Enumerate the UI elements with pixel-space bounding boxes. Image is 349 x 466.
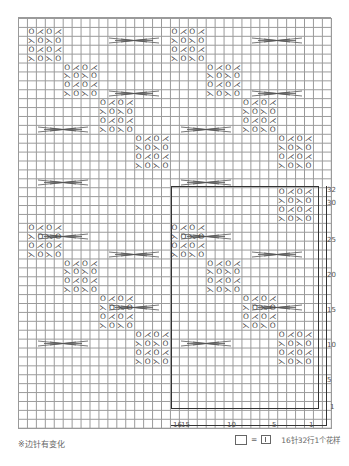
lace-motif-a: O⋌O⋌ (242, 116, 278, 125)
row-number: 32 (327, 186, 341, 194)
column-number: 1 (309, 421, 313, 429)
lace-motif-a: O⋌O⋌ (63, 276, 99, 285)
lace-motif-a: O⋌O⋌ (98, 98, 134, 107)
lace-motif-a: O⋌O⋌ (170, 223, 206, 232)
legend-description: 16针32行1个花样 (281, 434, 340, 445)
row-number: 10 (327, 341, 341, 349)
lace-motif-a: O⋌O⋌ (277, 134, 313, 143)
lace-motif-b: ⋋O⋋O (63, 89, 99, 98)
lace-motif-a: O⋌O⋌ (242, 312, 278, 321)
cable-cross-icon (36, 178, 90, 187)
lace-motif-b: ⋋O⋋O (63, 285, 99, 294)
lace-motif-b: ⋋O⋋O (206, 71, 242, 80)
row-number: 25 (327, 236, 341, 244)
cable-cross-icon (36, 125, 90, 134)
lace-motif-b: ⋋O⋋O (206, 89, 242, 98)
legend-equals: = (251, 435, 257, 444)
lace-motif-b: ⋋O⋋O (98, 303, 134, 312)
empty-cell-icon (235, 435, 247, 445)
lace-motif-b: ⋋O⋋O (98, 107, 134, 116)
lace-motif-b: ⋋O⋋O (206, 285, 242, 294)
lace-motif-b: ⋋O⋋O (27, 250, 63, 259)
lace-motif-b: ⋋O⋋O (277, 357, 313, 366)
lace-motif-b: ⋋O⋋O (170, 232, 206, 241)
lace-motif-b: ⋋O⋋O (170, 36, 206, 45)
cable-cross-icon (250, 89, 304, 98)
lace-motif-b: ⋋O⋋O (242, 125, 278, 134)
lace-motif-b: ⋋O⋋O (27, 54, 63, 63)
lace-motif-a: O⋌O⋌ (134, 134, 170, 143)
lace-motif-a: O⋌O⋌ (170, 27, 206, 36)
lace-motif-b: ⋋O⋋O (98, 321, 134, 330)
row-number: 20 (327, 271, 341, 279)
cable-cross-icon (179, 339, 233, 348)
row-number: 1 (330, 403, 344, 411)
lace-motif-b: ⋋O⋋O (170, 54, 206, 63)
cable-cross-icon (250, 36, 304, 45)
lace-motif-a: O⋌O⋌ (27, 45, 63, 54)
cable-cross-icon (179, 178, 233, 187)
lace-motif-a: O⋌O⋌ (206, 63, 242, 72)
knit-stitch-icon (261, 435, 271, 444)
lace-motif-a: O⋌O⋌ (242, 294, 278, 303)
lace-motif-a: O⋌O⋌ (27, 223, 63, 232)
lace-motif-a: O⋌O⋌ (27, 241, 63, 250)
lace-motif-b: ⋋O⋋O (134, 339, 170, 348)
lace-motif-b: ⋋O⋋O (134, 357, 170, 366)
lace-motif-b: ⋋O⋋O (170, 250, 206, 259)
cable-cross-icon (250, 250, 304, 259)
cable-cross-icon (107, 36, 161, 45)
lace-motif-b: ⋋O⋋O (134, 143, 170, 152)
lace-motif-a: O⋌O⋌ (277, 205, 313, 214)
row-number: 5 (327, 376, 341, 384)
lace-motif-a: O⋌O⋌ (134, 330, 170, 339)
lace-motif-b: ⋋O⋋O (277, 143, 313, 152)
lace-motif-b: ⋋O⋋O (277, 196, 313, 205)
lace-motif-b: ⋋O⋋O (98, 125, 134, 134)
lace-motif-a: O⋌O⋌ (277, 348, 313, 357)
lace-motif-a: O⋌O⋌ (206, 80, 242, 89)
lace-motif-a: O⋌O⋌ (242, 98, 278, 107)
lace-motif-a: O⋌O⋌ (277, 187, 313, 196)
lace-motif-b: ⋋O⋋O (277, 161, 313, 170)
lace-motif-a: O⋌O⋌ (27, 27, 63, 36)
lace-motif-b: ⋋O⋋O (63, 71, 99, 80)
lace-motif-a: O⋌O⋌ (98, 116, 134, 125)
lace-motif-b: ⋋O⋋O (27, 232, 63, 241)
cable-cross-icon (179, 125, 233, 134)
row-number: 15 (327, 306, 341, 314)
lace-motif-a: O⋌O⋌ (170, 45, 206, 54)
lace-motif-a: O⋌O⋌ (63, 63, 99, 72)
knitting-chart: O⋌O⋌⋋O⋋OO⋌O⋌⋋O⋋OO⋌O⋌⋋O⋋OO⋌O⋌⋋O⋋OO⋌O⋌⋋O⋋O… (0, 0, 349, 466)
column-number: 15 (181, 421, 190, 429)
lace-motif-a: O⋌O⋌ (206, 259, 242, 268)
footnote: ※边针有变化 (18, 438, 65, 449)
legend: = 16针32行1个花样 (235, 434, 340, 445)
lace-motif-a: O⋌O⋌ (63, 80, 99, 89)
row-number: 30 (327, 199, 341, 207)
lace-motif-a: O⋌O⋌ (98, 312, 134, 321)
lace-motif-b: ⋋O⋋O (134, 161, 170, 170)
lace-motif-b: ⋋O⋋O (242, 107, 278, 116)
lace-motif-a: O⋌O⋌ (206, 276, 242, 285)
column-number: 10 (227, 421, 236, 429)
lace-motif-b: ⋋O⋋O (277, 339, 313, 348)
lace-motif-b: ⋋O⋋O (63, 267, 99, 276)
lace-motif-a: O⋌O⋌ (134, 152, 170, 161)
lace-motif-a: O⋌O⋌ (277, 330, 313, 339)
lace-motif-a: O⋌O⋌ (134, 348, 170, 357)
lace-motif-b: ⋋O⋋O (242, 303, 278, 312)
cable-cross-icon (36, 339, 90, 348)
lace-motif-a: O⋌O⋌ (63, 259, 99, 268)
lace-motif-a: O⋌O⋌ (98, 294, 134, 303)
lace-motif-b: ⋋O⋋O (27, 36, 63, 45)
lace-motif-a: O⋌O⋌ (277, 152, 313, 161)
lace-motif-b: ⋋O⋋O (277, 214, 313, 223)
cable-cross-icon (107, 250, 161, 259)
lace-motif-b: ⋋O⋋O (242, 321, 278, 330)
cable-cross-icon (107, 89, 161, 98)
lace-motif-a: O⋌O⋌ (170, 241, 206, 250)
column-number: 5 (272, 421, 276, 429)
lace-motif-b: ⋋O⋋O (206, 267, 242, 276)
